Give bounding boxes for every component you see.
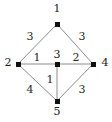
node-4 — [91, 62, 96, 67]
edge-weight-2-3: 1 — [31, 52, 43, 63]
vertex-label-1: 1 — [47, 3, 67, 14]
edge-weight-3-4: 2 — [70, 52, 82, 63]
vertex-label-5: 5 — [47, 106, 67, 117]
node-5 — [55, 99, 60, 104]
node-1 — [55, 22, 60, 27]
weighted-graph-figure: 1 2 3 4 5 3 3 1 2 1 4 3 — [0, 0, 112, 122]
graph-canvas — [0, 0, 112, 122]
vertex-label-4: 4 — [98, 57, 112, 68]
vertex-label-3: 3 — [49, 49, 65, 60]
vertex-label-2: 2 — [1, 57, 15, 68]
edge-weight-2-5: 4 — [24, 84, 36, 95]
edge-weight-4-5: 3 — [76, 84, 88, 95]
node-3 — [55, 62, 60, 67]
edge-4-5 — [57, 64, 93, 101]
node-2 — [16, 62, 21, 67]
edge-weight-1-4: 3 — [76, 31, 88, 42]
edge-weight-3-5: 1 — [44, 74, 56, 85]
edge-weight-1-2: 3 — [24, 31, 36, 42]
